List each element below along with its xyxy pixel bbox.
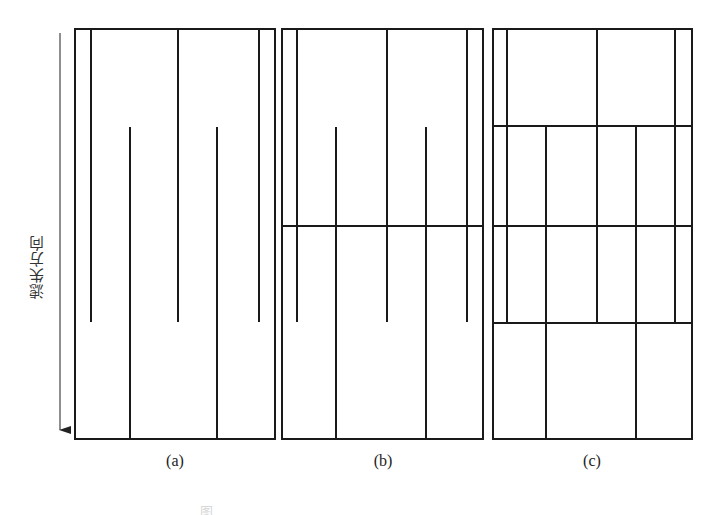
panel-label-a: (a) [166, 452, 184, 470]
figure-caption: 图 [200, 505, 520, 515]
filtration-direction-label: 滤失方向 [26, 235, 50, 299]
panel-frame [282, 29, 483, 439]
panel-frame [493, 29, 692, 439]
panel-a-diagram [75, 29, 275, 439]
panel-label-b: (b) [374, 452, 393, 470]
fracture-pattern-diagram [0, 0, 719, 515]
panel-frame [75, 29, 275, 439]
panel-label-c: (c) [583, 452, 601, 470]
panel-b-diagram [282, 29, 483, 439]
panel-c-diagram [493, 29, 692, 439]
